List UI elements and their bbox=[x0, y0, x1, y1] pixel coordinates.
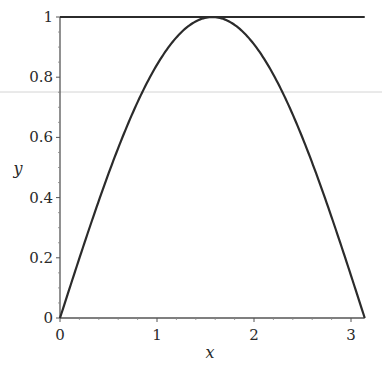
y-axis-label: y bbox=[12, 159, 23, 178]
ticks: 00.20.40.60.810123 bbox=[29, 8, 356, 344]
y-tick-label: 0.6 bbox=[29, 128, 53, 146]
x-axis-label: x bbox=[205, 343, 214, 362]
y-tick-label: 0 bbox=[43, 309, 53, 327]
y-tick-label: 0.8 bbox=[29, 68, 53, 86]
y-tick-label: 0.4 bbox=[29, 189, 53, 207]
x-tick-label: 0 bbox=[55, 326, 65, 344]
x-tick-label: 3 bbox=[346, 326, 356, 344]
y-tick-label: 1 bbox=[43, 8, 53, 26]
y-tick-label: 0.2 bbox=[29, 249, 53, 267]
x-tick-label: 2 bbox=[249, 326, 259, 344]
sine-curve bbox=[60, 17, 365, 318]
axes bbox=[60, 17, 365, 318]
chart: 00.20.40.60.810123 x y bbox=[0, 0, 382, 381]
x-tick-label: 1 bbox=[152, 326, 162, 344]
series bbox=[60, 17, 365, 318]
